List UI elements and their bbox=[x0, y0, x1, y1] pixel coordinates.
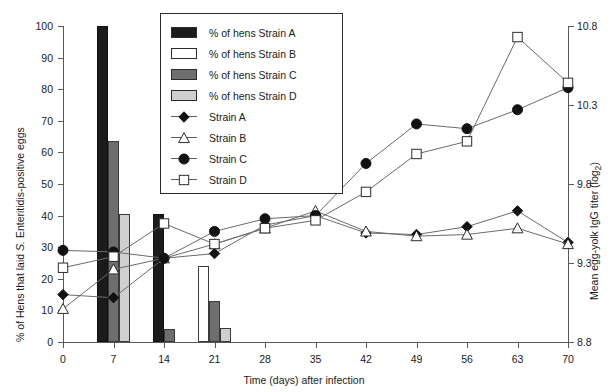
x-tick bbox=[265, 343, 266, 348]
legend-label: Strain A bbox=[209, 111, 246, 123]
legend-item: Strain A bbox=[171, 106, 342, 127]
bar-strain-d-day-7 bbox=[119, 214, 130, 342]
bar-strain-a-day-14 bbox=[153, 214, 164, 342]
y-tick bbox=[58, 26, 63, 27]
x-tick bbox=[568, 343, 569, 348]
x-tick bbox=[366, 343, 367, 348]
legend-item: % of hens Strain D bbox=[171, 85, 342, 106]
y-tick bbox=[58, 310, 63, 311]
y-tick-label: 60 bbox=[25, 147, 53, 157]
y-tick bbox=[58, 58, 63, 59]
y-tick bbox=[58, 279, 63, 280]
y-tick bbox=[58, 89, 63, 90]
legend-line-marker bbox=[171, 132, 197, 144]
y-axis-left bbox=[63, 26, 64, 343]
y2-tick-label: 10.3 bbox=[577, 100, 608, 110]
y-tick-label: 50 bbox=[25, 179, 53, 189]
legend-swatch bbox=[171, 90, 197, 101]
legend-swatch bbox=[171, 69, 197, 80]
x-tick bbox=[316, 343, 317, 348]
y2-tick-label: 10.8 bbox=[577, 21, 608, 31]
y-tick-label: 90 bbox=[25, 53, 53, 63]
legend-label: Strain C bbox=[209, 153, 247, 165]
x-tick-label: 70 bbox=[553, 354, 583, 364]
y2-tick-label: 8.8 bbox=[577, 337, 608, 347]
legend-label: % of hens Strain B bbox=[209, 48, 296, 60]
x-tick-label: 21 bbox=[200, 354, 230, 364]
y-tick-label: 80 bbox=[25, 84, 53, 94]
legend-line-marker bbox=[171, 153, 197, 165]
legend-swatch bbox=[171, 48, 197, 59]
legend-label: % of hens Strain D bbox=[209, 90, 297, 102]
bar-strain-b-day-21 bbox=[198, 266, 209, 342]
x-tick-label: 35 bbox=[301, 354, 331, 364]
x-tick-label: 14 bbox=[149, 354, 179, 364]
bar-strain-d-day-21 bbox=[220, 328, 231, 342]
series-strain-a bbox=[58, 206, 573, 303]
x-tick-label: 56 bbox=[452, 354, 482, 364]
y2-tick bbox=[569, 342, 574, 343]
legend-line-marker bbox=[171, 111, 197, 123]
x-tick bbox=[63, 343, 64, 348]
chart-legend: % of hens Strain A% of hens Strain B% of… bbox=[160, 13, 343, 194]
series-strain-b bbox=[58, 205, 574, 313]
legend-label: % of hens Strain A bbox=[209, 27, 295, 39]
y-tick-label: 40 bbox=[25, 211, 53, 221]
legend-item: Strain B bbox=[171, 127, 342, 148]
legend-item: Strain D bbox=[171, 169, 342, 190]
bar-strain-c-day-21 bbox=[209, 301, 220, 342]
x-tick-label: 7 bbox=[99, 354, 129, 364]
chart-figure: % of Hens that laid S. Enteritidis-posit… bbox=[0, 0, 608, 392]
legend-line-marker bbox=[171, 174, 197, 186]
y-tick bbox=[58, 216, 63, 217]
y2-tick-label: 9.3 bbox=[577, 258, 608, 268]
y-tick bbox=[58, 121, 63, 122]
legend-label: % of hens Strain C bbox=[209, 69, 297, 81]
x-tick bbox=[417, 343, 418, 348]
legend-label: Strain D bbox=[209, 174, 247, 186]
y-tick-label: 70 bbox=[25, 116, 53, 126]
x-tick bbox=[114, 343, 115, 348]
y2-tick bbox=[569, 26, 574, 27]
x-tick-label: 63 bbox=[503, 354, 533, 364]
x-tick bbox=[164, 343, 165, 348]
legend-item: Strain C bbox=[171, 148, 342, 169]
y2-tick bbox=[569, 184, 574, 185]
legend-item: % of hens Strain A bbox=[171, 22, 342, 43]
y-tick bbox=[58, 152, 63, 153]
bar-strain-c-day-14 bbox=[164, 329, 175, 342]
x-tick bbox=[215, 343, 216, 348]
legend-item: % of hens Strain C bbox=[171, 64, 342, 85]
x-tick bbox=[518, 343, 519, 348]
y-tick-label: 0 bbox=[25, 337, 53, 347]
x-axis-title: Time (days) after infection bbox=[0, 374, 608, 386]
y2-tick-label: 9.8 bbox=[577, 179, 608, 189]
legend-swatch bbox=[171, 27, 197, 38]
y2-tick bbox=[569, 263, 574, 264]
y-tick-label: 30 bbox=[25, 242, 53, 252]
x-tick-label: 0 bbox=[48, 354, 78, 364]
y2-tick bbox=[569, 105, 574, 106]
y-tick bbox=[58, 247, 63, 248]
x-tick-label: 49 bbox=[402, 354, 432, 364]
legend-label: Strain B bbox=[209, 132, 246, 144]
x-tick bbox=[467, 343, 468, 348]
legend-item: % of hens Strain B bbox=[171, 43, 342, 64]
y-tick-label: 100 bbox=[25, 21, 53, 31]
x-tick-label: 42 bbox=[351, 354, 381, 364]
bar-strain-c-day-7 bbox=[108, 141, 119, 342]
y-tick bbox=[58, 184, 63, 185]
x-tick-label: 28 bbox=[250, 354, 280, 364]
y-tick-label: 10 bbox=[25, 305, 53, 315]
y-tick-label: 20 bbox=[25, 274, 53, 284]
bar-strain-a-day-7 bbox=[97, 26, 108, 342]
